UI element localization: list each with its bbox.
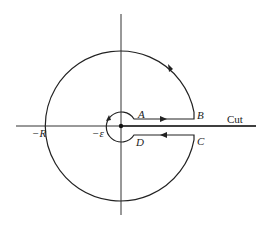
arrow-lower-segment	[160, 132, 167, 138]
arrow-upper-segment	[160, 116, 167, 122]
label-neg-epsilon: −ε	[92, 128, 104, 139]
label-D: D	[136, 137, 144, 148]
label-A: A	[138, 109, 145, 120]
origin-point	[119, 124, 123, 128]
label-B: B	[197, 110, 204, 121]
label-neg-R: −R	[32, 128, 46, 139]
label-cut: Cut	[227, 114, 243, 125]
arrow-outer-circle	[168, 64, 173, 72]
arrow-inner-circle	[106, 115, 111, 121]
keyhole-contour-diagram: A B C D −R −ε Cut	[0, 0, 270, 228]
label-C: C	[197, 136, 204, 147]
